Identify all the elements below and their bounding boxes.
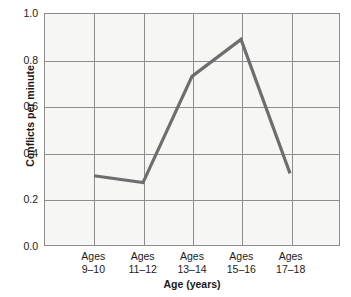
x-axis-title: Age (years) [44, 278, 340, 290]
y-tick-label: 0.8 [6, 54, 38, 66]
plot-area [44, 13, 340, 246]
x-tick-label-line2: 17–18 [254, 263, 328, 276]
series-line-conflicts-per-minute [45, 14, 339, 245]
y-tick-label: 0.6 [6, 100, 38, 112]
y-tick-label: 0.0 [6, 240, 38, 252]
x-tick-label-line1: Ages [254, 250, 328, 263]
y-tick-label: 0.2 [6, 193, 38, 205]
y-tick-label: 1.0 [6, 7, 38, 19]
x-tick-label: Ages17–18 [254, 250, 328, 276]
y-tick-label: 0.4 [6, 147, 38, 159]
line-chart-figure: Conflicts per minute 0.00.20.40.60.81.0 … [0, 0, 351, 297]
